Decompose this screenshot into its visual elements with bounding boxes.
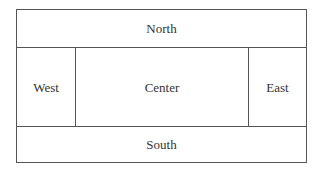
center-label: Center (145, 80, 180, 96)
west-region: West (16, 47, 76, 128)
south-region: South (16, 126, 307, 163)
east-region: East (248, 47, 307, 128)
east-label: East (266, 80, 288, 96)
north-region: North (16, 9, 307, 49)
south-label: South (146, 137, 176, 153)
center-region: Center (74, 47, 250, 128)
west-label: West (33, 80, 59, 96)
north-label: North (146, 21, 176, 37)
